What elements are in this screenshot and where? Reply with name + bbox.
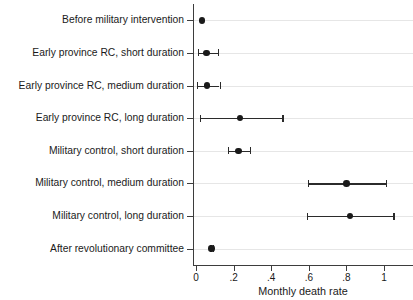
x-axis-tick-label: 1 xyxy=(381,272,387,283)
x-axis-tick xyxy=(309,266,310,271)
error-bar-cap xyxy=(250,147,251,154)
gridline xyxy=(193,151,413,152)
data-point xyxy=(204,82,211,89)
x-axis-title: Monthly death rate xyxy=(193,285,413,297)
gridline xyxy=(193,20,413,21)
x-axis-tick-label: .4 xyxy=(267,272,275,283)
dot-plot-chart: Before military interventionEarly provin… xyxy=(0,0,413,300)
x-axis-tick xyxy=(234,266,235,271)
x-axis-tick-label: .2 xyxy=(229,272,237,283)
y-axis-label: After revolutionary committee xyxy=(50,243,184,254)
error-bar-cap xyxy=(282,115,283,122)
x-axis-tick xyxy=(196,266,197,271)
data-point xyxy=(237,115,244,122)
data-point xyxy=(199,17,206,24)
error-bar-cap xyxy=(393,213,394,220)
x-axis-tick xyxy=(346,266,347,271)
y-axis-label: Early province RC, long duration xyxy=(36,112,184,123)
y-axis-tick xyxy=(187,249,193,250)
y-axis-tick xyxy=(187,86,193,87)
error-bar-cap xyxy=(197,82,198,89)
y-axis-tick xyxy=(187,20,193,21)
gridline xyxy=(193,249,413,250)
error-bar-cap xyxy=(308,180,309,187)
y-axis-tick xyxy=(187,151,193,152)
y-axis-label: Military control, medium duration xyxy=(35,177,184,188)
y-axis-label: Before military intervention xyxy=(62,14,184,25)
x-axis-tick xyxy=(384,266,385,271)
y-axis-label: Early province RC, medium duration xyxy=(19,80,184,91)
error-bar-cap xyxy=(200,115,201,122)
gridline xyxy=(193,86,413,87)
y-axis-line xyxy=(193,4,194,266)
data-point xyxy=(347,213,354,220)
y-axis-tick xyxy=(187,216,193,217)
error-bar-cap xyxy=(386,180,387,187)
data-point xyxy=(203,50,210,57)
y-axis-tick xyxy=(187,53,193,54)
error-bar-cap xyxy=(228,147,229,154)
x-axis-tick xyxy=(271,266,272,271)
error-bar-cap xyxy=(218,49,219,56)
y-axis-tick xyxy=(187,183,193,184)
y-axis-label: Military control, long duration xyxy=(52,210,184,221)
plot-area xyxy=(193,4,413,265)
gridline xyxy=(193,53,413,54)
x-axis-tick-label: 0 xyxy=(193,272,199,283)
y-axis-label: Military control, short duration xyxy=(49,145,184,156)
data-point xyxy=(235,148,242,155)
x-axis-line xyxy=(193,265,413,266)
x-axis-tick-label: .8 xyxy=(342,272,350,283)
error-bar-cap xyxy=(198,49,199,56)
x-axis-tick-label: .6 xyxy=(305,272,313,283)
y-axis-label: Early province RC, short duration xyxy=(32,47,184,58)
data-point xyxy=(208,245,215,252)
y-axis-tick xyxy=(187,118,193,119)
error-bar-cap xyxy=(220,82,221,89)
data-point xyxy=(343,180,350,187)
error-bar-cap xyxy=(307,213,308,220)
